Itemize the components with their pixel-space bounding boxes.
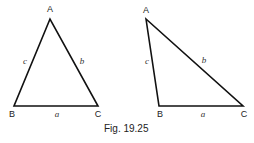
figure-caption: Fig. 19.25 — [104, 123, 149, 134]
triangle-outline — [146, 19, 243, 106]
vertex-label-b: B — [9, 109, 15, 119]
side-label-a: a — [55, 109, 60, 119]
vertex-label-a: A — [47, 4, 53, 14]
side-label-a: a — [201, 109, 206, 119]
vertex-label-c: C — [95, 109, 102, 119]
side-label-c: c — [145, 56, 149, 66]
vertex-label-b: B — [157, 109, 163, 119]
acute-triangle: A B C c b a — [9, 4, 102, 119]
vertex-label-c: C — [241, 109, 248, 119]
side-label-b: b — [202, 55, 207, 65]
obtuse-triangle: A B C c b a — [143, 5, 248, 119]
figure-canvas: A B C c b a A B C c b a Fig. 19.25 — [0, 0, 254, 143]
side-label-c: c — [23, 56, 27, 66]
vertex-label-a: A — [143, 5, 149, 15]
side-label-b: b — [80, 56, 85, 66]
